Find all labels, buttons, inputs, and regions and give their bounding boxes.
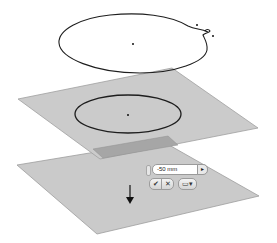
lower-work-plane[interactable] (17, 141, 259, 234)
action-row: ✔ ✕ ▭▾ (149, 178, 209, 190)
spline-point-1[interactable] (196, 24, 198, 26)
apply-arrow-button[interactable]: ▸ (197, 164, 208, 175)
extrude-mini-toolbar: -50 mm ▸ ✔ ✕ ▭▾ (146, 164, 208, 194)
spline-center-point[interactable] (132, 43, 134, 45)
top-spline-sketch[interactable] (59, 14, 210, 73)
options-dropdown-button[interactable]: ▭▾ (178, 178, 197, 190)
drag-grip-handle[interactable] (146, 165, 151, 176)
cancel-button[interactable]: ✕ (161, 178, 174, 190)
distance-row: -50 mm ▸ (146, 164, 208, 175)
graphics-viewport[interactable] (0, 0, 277, 243)
spline-point-2[interactable] (212, 35, 214, 37)
ellipse-center-point[interactable] (127, 114, 129, 116)
